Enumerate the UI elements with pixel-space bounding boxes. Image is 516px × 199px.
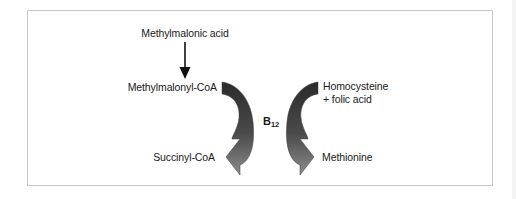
homocysteine-label: Homocysteine [323, 80, 388, 92]
curved-arrow-right-icon [286, 82, 318, 175]
diagram-artwork [0, 0, 516, 199]
methionine-label: Methionine [322, 151, 372, 163]
succinyl-coa-label: Succinyl-CoA [130, 151, 215, 163]
methylmalonyl-coa-label: Methylmalonyl-CoA [110, 81, 217, 93]
down-arrow-icon [180, 42, 191, 79]
curved-arrow-left-icon [222, 82, 254, 175]
cofactor-subscript: 12 [271, 120, 279, 129]
cofactor-letter: B [263, 115, 271, 127]
folic-acid-label: + folic acid [323, 93, 372, 105]
page-edge [512, 0, 516, 199]
cofactor-b12-label: B12 [263, 115, 279, 127]
precursor-label: Methylmalonic acid [134, 27, 236, 39]
